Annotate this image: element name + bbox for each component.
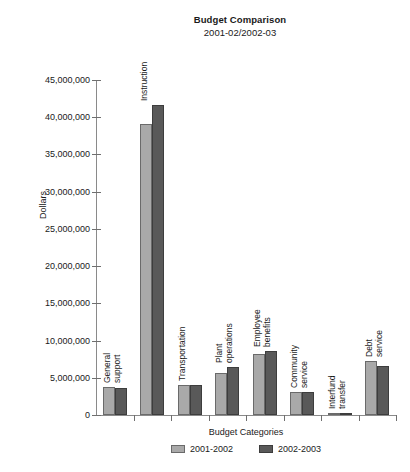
x-axis-tick: [359, 415, 360, 421]
y-axis-tick: [92, 266, 101, 267]
chart-title: Budget Comparison: [95, 14, 385, 26]
bar: [365, 361, 377, 415]
x-axis-category-label: Plantoperations: [214, 323, 234, 363]
y-axis-line: [96, 80, 97, 416]
y-axis-tick: [92, 303, 101, 304]
bar: [103, 387, 115, 415]
bar: [253, 354, 265, 415]
x-axis-category-label: Employeebenefits: [252, 309, 272, 347]
x-axis-tick: [284, 415, 285, 421]
legend-swatch: [259, 445, 273, 453]
bar: [140, 124, 152, 415]
y-axis-tick: [92, 154, 101, 155]
budget-comparison-chart: Budget Comparison 2001-02/2002-03 Dollar…: [0, 0, 410, 472]
legend-label: 2002-2003: [278, 444, 321, 454]
chart-subtitle: 2001-02/2002-03: [95, 26, 385, 39]
legend-item[interactable]: 2001-2002: [171, 444, 233, 454]
bar: [377, 366, 389, 415]
bar: [115, 388, 127, 415]
y-axis-tick-label: 20,000,000: [12, 262, 90, 271]
chart-legend: 2001-20022002-2003: [96, 444, 396, 454]
x-axis-tick: [134, 415, 135, 421]
y-axis-tick-label: 40,000,000: [12, 113, 90, 122]
bar: [190, 385, 202, 415]
y-axis-tick-label: 15,000,000: [12, 299, 90, 308]
legend-swatch: [171, 445, 185, 453]
y-axis-tick-label: 30,000,000: [12, 188, 90, 197]
bar: [215, 373, 227, 415]
y-axis-tick-label: 25,000,000: [12, 225, 90, 234]
x-axis-category-label: Communityservice: [289, 345, 309, 388]
x-axis-tick: [209, 415, 210, 421]
x-axis-category-label: Transportation: [177, 326, 187, 381]
bar: [290, 392, 302, 415]
x-axis-label: Budget Categories: [96, 427, 396, 437]
chart-title-block: Budget Comparison 2001-02/2002-03: [95, 14, 385, 39]
x-axis-category-label: Instruction: [139, 61, 149, 100]
bar: [265, 351, 277, 415]
bar: [227, 367, 239, 415]
y-axis-tick: [92, 117, 101, 118]
bar: [152, 105, 164, 415]
x-axis-category-label: Debtservice: [364, 330, 384, 357]
y-axis-tick: [92, 192, 101, 193]
y-axis-tick-label: 0: [12, 411, 90, 420]
plot-area: 45,000,00040,000,00035,000,00030,000,000…: [96, 80, 396, 415]
y-axis-tick-label: 45,000,000: [12, 76, 90, 85]
y-axis-tick: [92, 80, 101, 81]
bar: [340, 413, 352, 415]
x-axis-category-label: Interfundtransfer: [327, 376, 347, 410]
y-axis-tick: [92, 378, 101, 379]
y-axis-tick: [92, 341, 101, 342]
y-axis-tick-label: 5,000,000: [12, 374, 90, 383]
bar: [328, 413, 340, 415]
x-axis-tick: [396, 415, 397, 421]
legend-label: 2001-2002: [190, 444, 233, 454]
y-axis-tick-label: 10,000,000: [12, 337, 90, 346]
legend-item[interactable]: 2002-2003: [259, 444, 321, 454]
y-axis-tick: [92, 415, 101, 416]
x-axis-tick: [246, 415, 247, 421]
bar: [178, 385, 190, 415]
x-axis-category-label: Generalsupport: [102, 353, 122, 383]
x-axis-tick: [171, 415, 172, 421]
x-axis-tick: [321, 415, 322, 421]
bar: [302, 392, 314, 415]
y-axis-tick: [92, 229, 101, 230]
y-axis-tick-label: 35,000,000: [12, 150, 90, 159]
